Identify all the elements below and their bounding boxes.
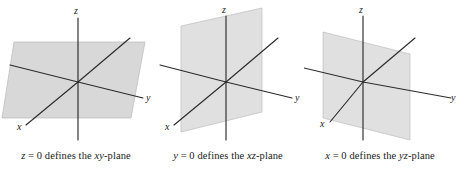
caption-plane-name-yz: yz xyxy=(399,150,408,161)
axis-label-z: z xyxy=(358,4,363,15)
axis-label-z: z xyxy=(73,5,78,16)
plane-shape-yz xyxy=(323,32,410,140)
axis-label-y: y xyxy=(450,92,456,103)
caption-xy-plane: z = 0 defines the xy-plane xyxy=(0,150,152,161)
panel-yz-plane: z y x x = 0 defines the yz-plane xyxy=(304,0,456,177)
caption-text-xz: = 0 defines the xyxy=(181,150,245,161)
panel-xz-plane: z y x y = 0 defines the xz-plane xyxy=(152,0,304,177)
caption-plane-name-xy: xy xyxy=(94,150,104,161)
caption-plane-suffix-xz: -plane xyxy=(256,150,283,161)
plane-shape-xz xyxy=(181,8,262,132)
caption-plane-suffix-yz: -plane xyxy=(408,150,435,161)
caption-text-yz: = 0 defines the xyxy=(333,150,397,161)
plane-shape-xy xyxy=(2,42,145,118)
caption-xz-plane: y = 0 defines the xz-plane xyxy=(152,150,304,161)
axis-label-y: y xyxy=(145,92,151,103)
diagram-xy-plane: z y x xyxy=(0,0,152,148)
axis-label-x: x xyxy=(319,118,325,129)
panel-xy-plane: z y x z = 0 defines the xy-plane xyxy=(0,0,152,177)
caption-text-xy: = 0 defines the xyxy=(28,150,92,161)
diagram-yz-plane: z y x xyxy=(304,0,456,148)
axis-label-x: x xyxy=(16,121,22,132)
caption-yz-plane: x = 0 defines the yz-plane xyxy=(304,150,456,161)
coordinate-planes-figure: z y x z = 0 defines the xy-plane z y x y… xyxy=(0,0,457,177)
axis-label-z: z xyxy=(221,4,226,15)
caption-plane-suffix-xy: -plane xyxy=(104,150,131,161)
axis-label-y: y xyxy=(294,92,300,103)
axis-label-x: x xyxy=(164,121,170,132)
diagram-xz-plane: z y x xyxy=(152,0,304,148)
caption-plane-name-xz: xz xyxy=(247,150,256,161)
